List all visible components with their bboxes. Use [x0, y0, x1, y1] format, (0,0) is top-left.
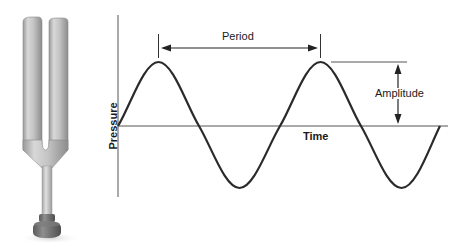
sound-wave-diagram: Period Amplitude Time Pressure	[0, 0, 468, 247]
amplitude-label: Amplitude	[374, 88, 425, 99]
sine-wave	[118, 62, 440, 188]
tuning-fork-illustration	[20, 17, 80, 244]
time-axis-label: Time	[303, 131, 328, 142]
pressure-axis-label: Pressure	[108, 91, 119, 161]
period-label: Period	[222, 31, 254, 42]
